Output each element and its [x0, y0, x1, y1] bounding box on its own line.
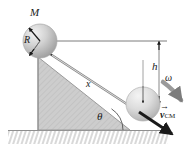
lower-sphere — [126, 41, 160, 121]
ground-hatching — [8, 131, 168, 144]
velocity-subscript: CM — [164, 112, 175, 120]
vector-arrow-accent: → — [160, 102, 168, 111]
mass-label: M — [30, 7, 39, 18]
distance-label: x — [86, 79, 90, 89]
angular-velocity-arrow — [163, 82, 181, 100]
rolling-sphere-incline-figure: M R x h θ ω →vCM — [0, 0, 193, 154]
angle-label: θ — [97, 111, 102, 122]
angular-velocity-label: ω — [165, 73, 172, 83]
omega-curved-arrow — [163, 82, 181, 100]
ground-surface — [8, 131, 168, 145]
inclined-plane — [38, 57, 130, 130]
velocity-cm-label: →vCM — [160, 110, 175, 120]
incline-body — [38, 57, 130, 130]
radius-label: R — [24, 35, 30, 45]
height-label: h — [152, 61, 158, 72]
velocity-symbol: →v — [160, 109, 164, 120]
